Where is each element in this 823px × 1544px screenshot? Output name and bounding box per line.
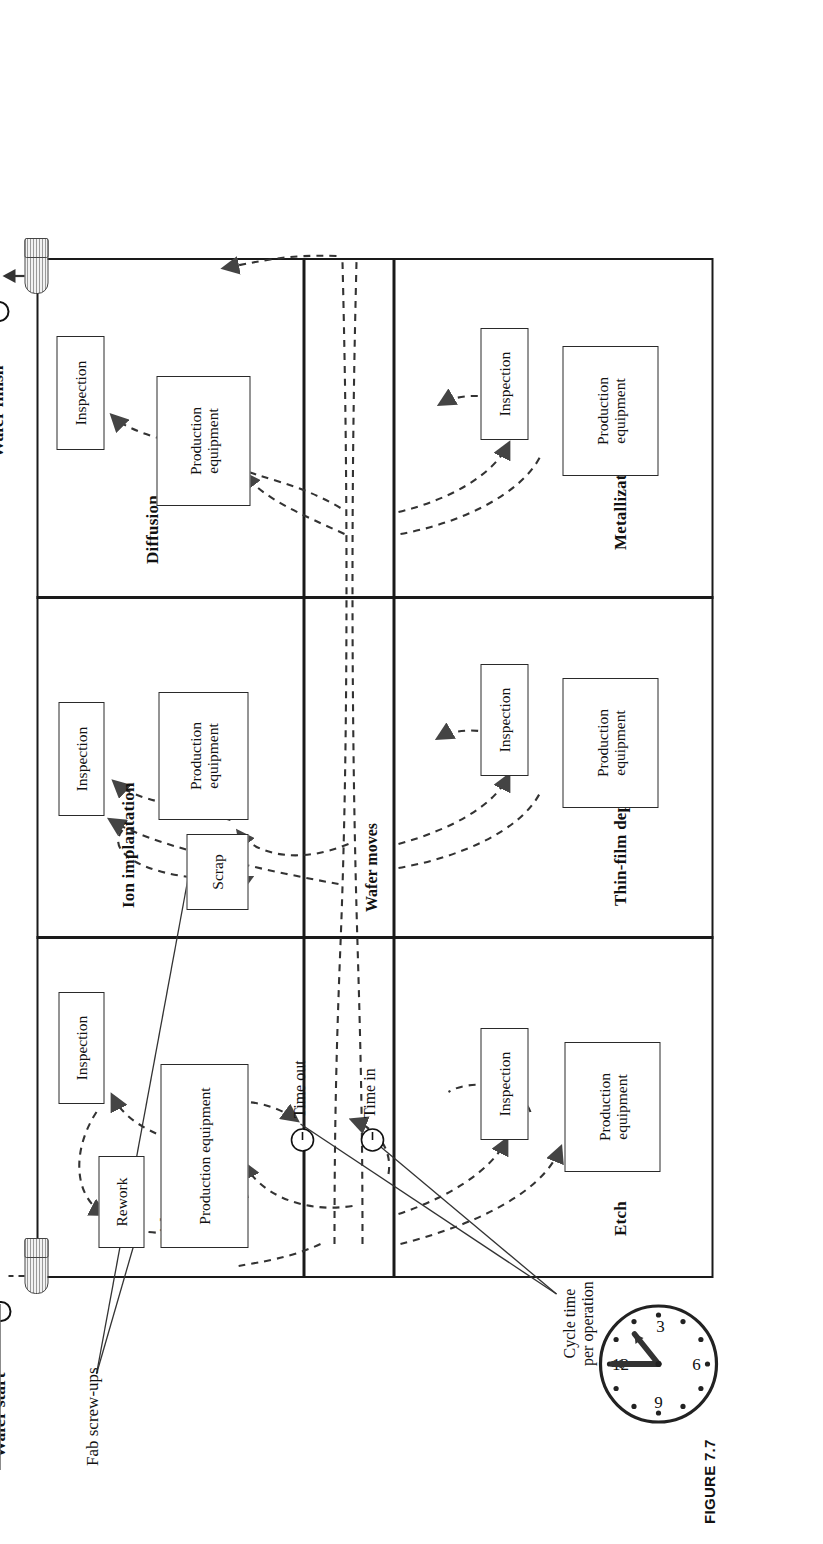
calendar-day-cell[interactable]: 31 <box>0 1336 2 1357</box>
calendar-day-cell[interactable]: 28 <box>0 1397 2 1418</box>
calendar-empty-cell <box>0 1438 2 1459</box>
calendar-day-cell[interactable]: 30 <box>0 1356 2 1377</box>
figure-caption: FIGURE 7.7 <box>700 1439 717 1524</box>
wafer-finish-label: Wafer finish <box>0 365 7 458</box>
figure-stage: Lith Ion implantation Diffusion Etch Thi… <box>0 0 823 1544</box>
calendar-day-cell[interactable]: 27 <box>0 1418 2 1439</box>
calendar-day-cell[interactable]: 29 <box>0 1377 2 1398</box>
calendar-empty-cell <box>0 1315 2 1336</box>
calendar-week-row: 2728293031 <box>0 1315 2 1459</box>
endpoint-arrows <box>0 0 823 1544</box>
